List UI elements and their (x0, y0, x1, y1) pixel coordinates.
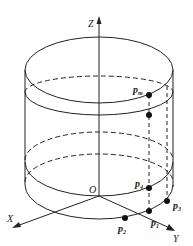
diagram-svg: Z X Y O pm p4 p3 p1 p2 (0, 0, 193, 246)
x-arrow-icon (12, 222, 21, 228)
label-p1: p1 (150, 217, 159, 229)
label-p3: p3 (172, 200, 181, 212)
x-axis (14, 196, 99, 227)
label-p2: p2 (117, 223, 126, 235)
point-p1 (146, 208, 152, 214)
y-axis-label: Y (173, 233, 180, 244)
point-pm-lower (146, 112, 152, 118)
z-arrow-icon (97, 16, 102, 24)
label-pm: pm (132, 84, 143, 96)
point-pm (146, 92, 152, 98)
x-axis-label: X (6, 213, 14, 224)
point-p3 (164, 198, 170, 204)
y-arrow-icon (166, 224, 175, 231)
origin-label: O (89, 184, 96, 195)
z-axis-label: Z (88, 18, 94, 29)
y-axis (99, 196, 172, 229)
point-p4 (146, 185, 152, 191)
point-p2 (122, 215, 128, 221)
cylinder-diagram: Z X Y O pm p4 p3 p1 p2 (0, 0, 193, 246)
label-p4: p4 (134, 178, 143, 190)
